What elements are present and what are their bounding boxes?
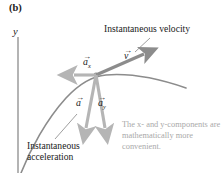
acceleration-label-line1: Instantaneous xyxy=(27,140,80,151)
vector-arrow-accent-v: → xyxy=(124,46,128,55)
instantaneous-acceleration-label: Instantaneousacceleration xyxy=(27,141,80,162)
panel-label: (b) xyxy=(9,2,22,14)
acceleration-leader-line xyxy=(55,114,77,139)
velocity-vector-arrow xyxy=(96,54,144,75)
velocity-vector-label: →v xyxy=(124,50,128,61)
velocity-leader-line xyxy=(135,38,150,52)
acceleration-y-vector-label: →ay xyxy=(98,97,106,110)
acceleration-x-vector-label: →ax xyxy=(83,56,91,69)
instantaneous-velocity-label: Instantaneous velocity xyxy=(104,24,190,35)
components-note-text: The x- and y-components are mathematical… xyxy=(122,120,222,152)
acceleration-x-subscript: x xyxy=(88,62,91,69)
instantaneous-velocity-acceleration-figure: (b) y Instantaneous velocity Instantaneo… xyxy=(0,0,223,173)
acceleration-y-subscript: y xyxy=(103,103,106,110)
y-axis-label: y xyxy=(13,26,18,38)
acceleration-vector-label: →a xyxy=(76,97,81,108)
vector-arrow-accent-ax: → xyxy=(83,52,88,61)
acceleration-label-line2: acceleration xyxy=(27,151,73,162)
acceleration-vector-arrow xyxy=(86,75,96,128)
vector-arrow-accent-ay: → xyxy=(98,93,103,102)
vector-arrow-accent-a: → xyxy=(76,93,81,102)
